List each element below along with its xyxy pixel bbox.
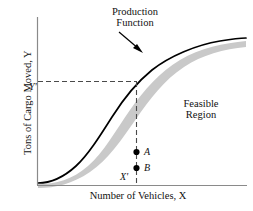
data-point-b bbox=[133, 165, 139, 171]
data-point-a-label: A bbox=[144, 147, 150, 158]
production-label-line2: Function bbox=[116, 17, 153, 28]
feasible-region-annotation: Feasible Region bbox=[172, 98, 230, 121]
feasible-label-line1: Feasible bbox=[184, 98, 219, 109]
production-function-chart: Production Function Feasible Region A B … bbox=[0, 0, 253, 211]
x-axis-tick-label: X' bbox=[120, 172, 128, 183]
production-function-annotation: Production Function bbox=[97, 6, 173, 29]
production-label-line1: Production bbox=[112, 6, 158, 17]
x-axis-title: Number of Vehicles, X bbox=[43, 190, 233, 201]
feasible-label-line2: Region bbox=[186, 109, 216, 120]
data-point-a bbox=[133, 149, 139, 155]
y-axis-title: Tons of Cargo Moved, Y bbox=[22, 28, 33, 178]
data-point-b-label: B bbox=[144, 163, 150, 174]
